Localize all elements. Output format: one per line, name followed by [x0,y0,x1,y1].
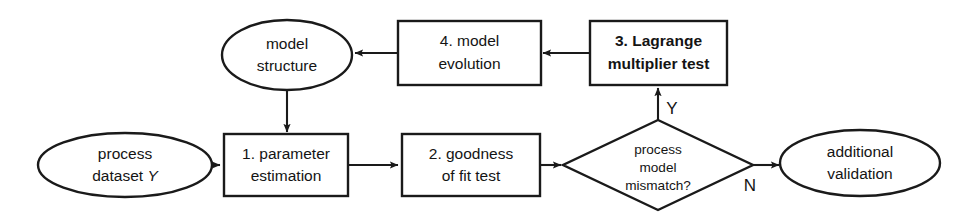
model-structure-label-line1: model [266,35,308,52]
model-structure-label-line2: structure [257,57,317,74]
lagrange-test-label-line1: 3. Lagrange [615,32,702,49]
model-structure-ellipse [222,20,352,90]
node-mismatch-decision[interactable]: process model mismatch? [563,120,753,210]
flowchart-diagram: Y N model structure 4. model evolution 3… [0,0,970,216]
flowchart-canvas: Y N model structure 4. model evolution 3… [0,0,970,216]
process-dataset-label-line1: process [98,145,153,162]
process-dataset-ellipse [38,133,212,197]
node-goodness-of-fit-test[interactable]: 2. goodness of fit test [402,134,540,196]
node-parameter-estimation[interactable]: 1. parameter estimation [224,134,348,196]
goodness-of-fit-label-line2: of fit test [442,167,501,184]
process-dataset-label-line2-prefix: dataset [92,167,147,184]
model-evolution-label-line1: 4. model [440,32,499,49]
lagrange-test-label-line2: multiplier test [608,55,710,72]
parameter-estimation-label-line1: 1. parameter [242,145,330,162]
node-lagrange-multiplier-test[interactable]: 3. Lagrange multiplier test [590,21,727,85]
parameter-estimation-label-line2: estimation [251,167,322,184]
model-evolution-label-line2: evolution [438,55,500,72]
model-evolution-box [398,21,541,85]
goodness-of-fit-label-line1: 2. goodness [429,145,514,162]
mismatch-decision-label-line3: mismatch? [625,178,691,193]
edge-label-no: N [744,176,756,195]
mismatch-decision-label-line2: model [639,160,676,175]
additional-validation-ellipse [780,130,940,196]
additional-validation-label-line1: additional [827,143,893,160]
edge-label-yes: Y [666,99,677,118]
node-additional-validation[interactable]: additional validation [780,130,940,196]
node-model-structure[interactable]: model structure [222,20,352,90]
mismatch-decision-label-line1: process [634,142,682,157]
goodness-of-fit-box [402,134,540,196]
process-dataset-label-line2: dataset Y [92,167,159,184]
lagrange-test-box [590,21,727,85]
node-model-evolution[interactable]: 4. model evolution [398,21,541,85]
additional-validation-label-line2: validation [827,165,893,182]
process-dataset-label-variable: Y [147,167,159,184]
node-process-dataset[interactable]: process dataset Y [38,133,212,197]
parameter-estimation-box [224,134,348,196]
